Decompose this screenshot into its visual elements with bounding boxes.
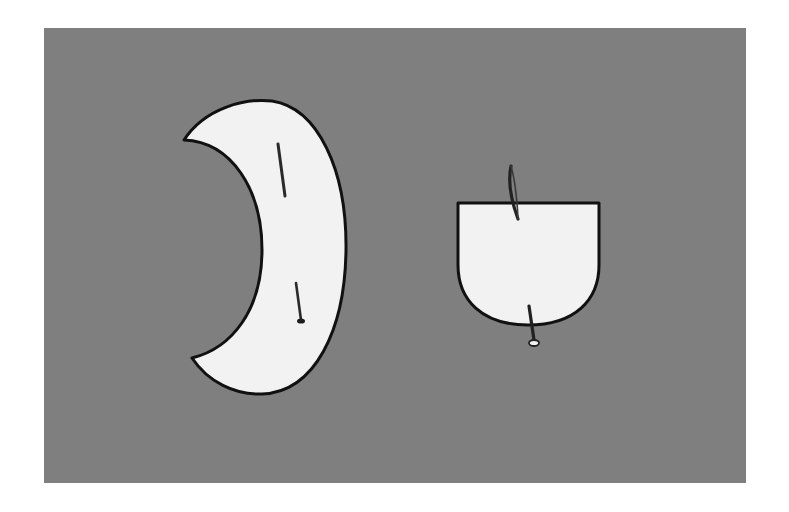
cup-cutout [458, 166, 599, 346]
figure-canvas: crescent-shaped cutout cup-shaped cutout [0, 0, 789, 512]
crescent-cutout [184, 100, 346, 394]
crescent-shape [184, 100, 346, 394]
diagram-illustration [0, 0, 789, 512]
